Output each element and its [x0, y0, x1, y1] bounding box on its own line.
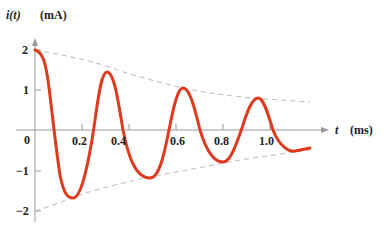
- x-axis-unit-label: (ms): [350, 123, 373, 137]
- y-axis-unit-label: (mA): [40, 8, 67, 22]
- damped-oscillation-chart: i(t) (mA) t (ms) 0 0.2 0.4 0.6 0.8 1.0 2…: [0, 0, 388, 233]
- x-axis-var-label: t: [335, 123, 339, 137]
- lower-envelope: [35, 150, 310, 211]
- x-tick-label-0.2: 0.2: [72, 134, 87, 148]
- y-tick-label-minus2: −2: [16, 204, 29, 218]
- x-axis-arrow-icon: [321, 127, 329, 133]
- x-tick-label-1.0: 1.0: [259, 134, 274, 148]
- y-tick-label-2: 2: [22, 43, 28, 57]
- x-tick-label-0.8: 0.8: [214, 134, 229, 148]
- y-axis-var-label: i(t): [6, 8, 21, 22]
- x-tick-label-0.6: 0.6: [170, 134, 185, 148]
- y-tick-label-1: 1: [23, 83, 29, 97]
- current-curve: [35, 50, 310, 198]
- x-tick-label-0: 0: [24, 133, 30, 147]
- x-tick-label-0.4: 0.4: [111, 134, 126, 148]
- upper-envelope: [35, 50, 310, 102]
- y-tick-label-minus1: −1: [16, 164, 29, 178]
- y-axis-arrow-icon: [32, 38, 38, 46]
